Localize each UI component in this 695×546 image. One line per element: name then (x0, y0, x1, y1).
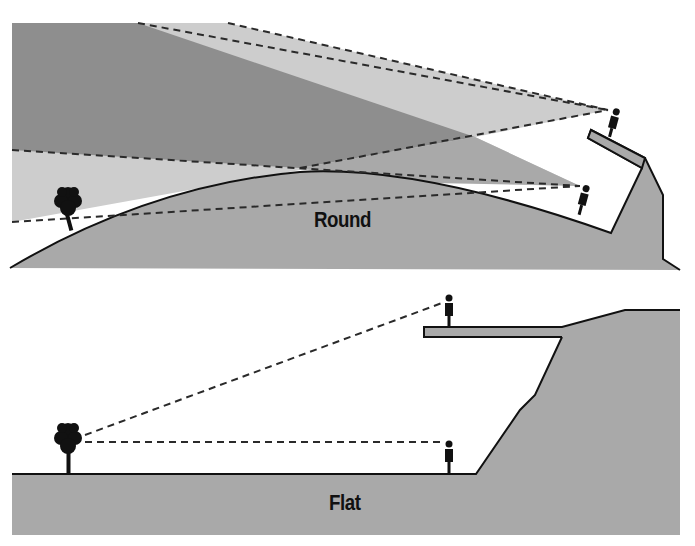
top-cliff-ledge (588, 130, 645, 168)
person-low-icon (575, 184, 591, 216)
flat-ground-outline (12, 337, 562, 474)
tree-icon (54, 423, 82, 474)
person-high-icon (606, 107, 621, 138)
person-high-icon (445, 295, 453, 328)
flat-label: Flat (329, 490, 361, 516)
flat-panel: Flat (0, 272, 695, 546)
person-low-icon (445, 441, 453, 475)
sightlines-flat (85, 303, 442, 442)
round-vs-flat-figure: Round (0, 0, 695, 546)
round-panel: Round (0, 0, 695, 272)
round-label: Round (314, 207, 371, 233)
